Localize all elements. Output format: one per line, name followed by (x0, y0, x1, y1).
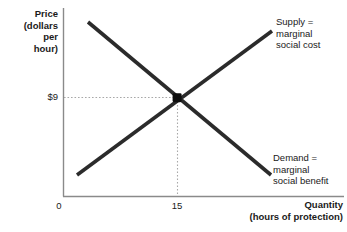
demand-label-line-1: Demand = (273, 152, 317, 163)
x-axis-title-line-1: Quantity (304, 199, 343, 210)
y-axis-title-line-2: (dollars (24, 20, 58, 31)
demand-curve-label: Demand =marginalsocial benefit (273, 152, 347, 187)
y-axis-title-line-1: Price (35, 8, 58, 19)
supply-label-line-1: Supply = (276, 16, 313, 27)
supply-curve-label: Supply =marginalsocial cost (276, 16, 346, 51)
demand-label-line-2: marginal (273, 164, 309, 175)
y-axis-title: Price(dollarsperhour) (2, 8, 58, 54)
origin-label: 0 (52, 200, 66, 212)
supply-demand-chart: Price(dollarsperhour) $9 0 15 Quantity(h… (0, 0, 347, 232)
y-axis-tick-label-price: $9 (30, 91, 58, 103)
x-axis-title: Quantity(hours of protection) (180, 199, 343, 222)
demand-label-line-3: social benefit (273, 175, 328, 186)
supply-label-line-2: marginal (276, 28, 312, 39)
y-axis-title-line-3: per (43, 31, 58, 42)
equilibrium-point-marker (173, 93, 182, 102)
supply-label-line-3: social cost (276, 39, 320, 50)
y-axis-title-line-4: hour) (34, 43, 58, 54)
x-axis-title-line-2: (hours of protection) (250, 211, 343, 222)
